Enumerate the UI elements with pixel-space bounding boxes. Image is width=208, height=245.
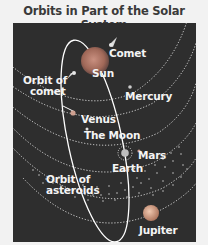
label-earth: Earth — [112, 163, 143, 174]
comet-icon — [109, 37, 117, 47]
label-sun: Sun — [92, 68, 114, 79]
solar-system-diagram: Comet Sun Orbit of comet Mercury Venus T… — [13, 23, 196, 242]
label-comet: Comet — [109, 48, 146, 59]
label-orbit-of-comet-2: comet — [30, 86, 66, 97]
label-venus: Venus — [81, 114, 116, 125]
label-jupiter: Jupiter — [139, 225, 177, 236]
venus-icon — [70, 110, 75, 115]
label-mars: Mars — [138, 150, 166, 161]
mercury-icon — [128, 85, 132, 89]
earth-icon — [121, 149, 129, 157]
jupiter-icon — [143, 205, 159, 221]
label-orbit-of-asteroids-2: asteroids — [46, 185, 99, 196]
comet-tail-icon — [67, 71, 76, 79]
label-mercury: Mercury — [125, 91, 172, 102]
label-the-moon: The Moon — [84, 130, 140, 141]
